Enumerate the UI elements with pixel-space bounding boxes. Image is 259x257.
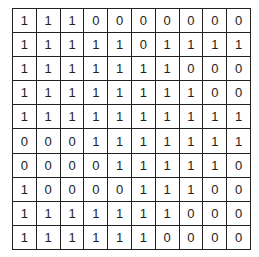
- grid-cell: 1: [36, 81, 60, 105]
- grid-row: 1000011100: [13, 177, 251, 201]
- grid-cell: 0: [13, 153, 37, 177]
- grid-cell: 1: [108, 81, 132, 105]
- grid-cell: 1: [227, 105, 251, 129]
- grid-row: 1111110000: [13, 225, 251, 249]
- grid-cell: 1: [60, 201, 84, 225]
- grid-cell: 0: [203, 9, 227, 33]
- grid-cell: 1: [36, 225, 60, 249]
- grid-cell: 0: [13, 129, 37, 153]
- grid-cell: 0: [36, 177, 60, 201]
- grid-cell: 1: [84, 201, 108, 225]
- grid-cell: 1: [84, 225, 108, 249]
- grid-cell: 1: [108, 153, 132, 177]
- grid-cell: 0: [203, 225, 227, 249]
- grid-cell: 0: [203, 177, 227, 201]
- grid-cell: 1: [13, 33, 37, 57]
- grid-cell: 1: [131, 105, 155, 129]
- grid-cell: 1: [227, 129, 251, 153]
- grid-cell: 0: [227, 9, 251, 33]
- grid-cell: 0: [227, 57, 251, 81]
- grid-cell: 1: [84, 33, 108, 57]
- grid-cell: 1: [36, 57, 60, 81]
- grid-row: 1111111111: [13, 105, 251, 129]
- grid-cell: 0: [60, 129, 84, 153]
- grid-cell: 1: [60, 105, 84, 129]
- grid-cell: 0: [179, 225, 203, 249]
- grid-cell: 1: [203, 153, 227, 177]
- grid-cell: 0: [227, 201, 251, 225]
- grid-cell: 1: [155, 81, 179, 105]
- grid-cell: 1: [60, 33, 84, 57]
- grid-cell: 1: [13, 9, 37, 33]
- grid-cell: 1: [108, 57, 132, 81]
- grid-cell: 1: [131, 177, 155, 201]
- grid-cell: 0: [227, 225, 251, 249]
- grid-cell: 1: [108, 225, 132, 249]
- grid-cell: 0: [227, 81, 251, 105]
- grid-row: 1111111000: [13, 201, 251, 225]
- grid-cell: 1: [203, 105, 227, 129]
- grid-cell: 1: [60, 57, 84, 81]
- grid-row: 1111101111: [13, 33, 251, 57]
- grid-cell: 1: [108, 129, 132, 153]
- grid-cell: 1: [36, 201, 60, 225]
- grid-row: 1111111000: [13, 57, 251, 81]
- grid-cell: 0: [84, 9, 108, 33]
- grid-cell: 1: [108, 33, 132, 57]
- grid-cell: 0: [108, 9, 132, 33]
- grid-row: 0000111110: [13, 153, 251, 177]
- grid-cell: 0: [60, 177, 84, 201]
- grid-cell: 0: [227, 177, 251, 201]
- grid-cell: 1: [13, 225, 37, 249]
- grid-cell: 1: [203, 129, 227, 153]
- grid-cell: 1: [131, 153, 155, 177]
- grid-cell: 1: [84, 81, 108, 105]
- grid-cell: 1: [131, 57, 155, 81]
- grid-cell: 0: [155, 9, 179, 33]
- grid-cell: 1: [108, 201, 132, 225]
- grid-cell: 0: [36, 129, 60, 153]
- grid-cell: 0: [84, 177, 108, 201]
- grid-cell: 0: [179, 201, 203, 225]
- grid-cell: 1: [84, 57, 108, 81]
- grid-cell: 1: [179, 33, 203, 57]
- grid-cell: 1: [227, 33, 251, 57]
- grid-cell: 1: [36, 105, 60, 129]
- grid-cell: 0: [155, 225, 179, 249]
- grid-cell: 1: [155, 129, 179, 153]
- grid-cell: 0: [203, 201, 227, 225]
- grid-cell: 1: [131, 225, 155, 249]
- binary-grid: 1110000000111110111111111110001111111100…: [12, 8, 251, 250]
- grid-cell: 1: [155, 153, 179, 177]
- grid-cell: 1: [13, 81, 37, 105]
- grid-cell: 1: [13, 201, 37, 225]
- grid-cell: 1: [13, 105, 37, 129]
- grid-cell: 1: [155, 177, 179, 201]
- grid-body: 1110000000111110111111111110001111111100…: [13, 9, 251, 250]
- grid-cell: 1: [13, 57, 37, 81]
- grid-cell: 0: [203, 57, 227, 81]
- grid-cell: 1: [60, 225, 84, 249]
- grid-cell: 0: [60, 153, 84, 177]
- grid-cell: 0: [203, 81, 227, 105]
- grid-row: 1110000000: [13, 9, 251, 33]
- grid-row: 0001111111: [13, 129, 251, 153]
- grid-cell: 1: [179, 129, 203, 153]
- grid-cell: 1: [203, 33, 227, 57]
- grid-cell: 1: [131, 129, 155, 153]
- grid-cell: 1: [155, 105, 179, 129]
- grid-cell: 1: [60, 81, 84, 105]
- grid-cell: 1: [60, 9, 84, 33]
- grid-cell: 0: [179, 57, 203, 81]
- grid-cell: 1: [36, 33, 60, 57]
- grid-cell: 0: [36, 153, 60, 177]
- grid-cell: 1: [108, 105, 132, 129]
- grid-cell: 1: [131, 81, 155, 105]
- grid-cell: 1: [84, 105, 108, 129]
- grid-cell: 1: [155, 33, 179, 57]
- grid-cell: 1: [179, 153, 203, 177]
- grid-cell: 1: [179, 177, 203, 201]
- grid-row: 1111111100: [13, 81, 251, 105]
- grid-cell: 1: [131, 201, 155, 225]
- grid-cell: 1: [13, 177, 37, 201]
